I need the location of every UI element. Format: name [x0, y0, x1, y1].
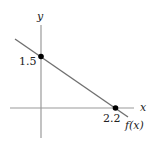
- x-intercept-label: 2.2: [103, 112, 121, 125]
- x-axis-label: x: [140, 101, 147, 114]
- y-intercept-label: 1.5: [19, 55, 37, 68]
- function-label: f(x): [124, 119, 144, 132]
- y-axis-label: y: [36, 10, 44, 23]
- function-line: [15, 39, 128, 117]
- x-intercept-point: [113, 105, 119, 111]
- line-graph-figure: y x 1.5 2.2 f(x): [0, 0, 150, 143]
- y-intercept-point: [38, 54, 44, 60]
